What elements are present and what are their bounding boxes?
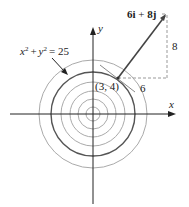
vertical-component-label: 8 [172, 40, 178, 52]
x-axis-label: x [168, 98, 174, 110]
axes [10, 32, 172, 204]
equation-label: x2+y2= 25 [19, 45, 69, 57]
equation-pointer [52, 58, 65, 72]
y-axis-label: y [97, 22, 103, 34]
x-axis-arrow-icon [168, 111, 176, 117]
point-label: (3, 4) [95, 80, 119, 93]
gradient-vector-arrow-icon [160, 14, 166, 21]
gradient-diagram: x2+y2= 25 6i + 8j (3, 4) 6 8 x y [0, 0, 189, 207]
horizontal-component-label: 6 [140, 82, 146, 94]
y-axis-arrow-icon [90, 27, 96, 35]
vector-label: 6i + 8j [127, 8, 156, 20]
gradient-vector [118, 16, 165, 78]
